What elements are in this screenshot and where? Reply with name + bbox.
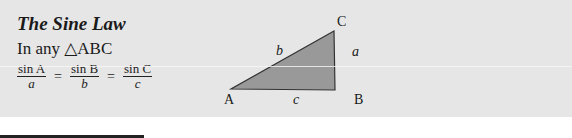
denominator: c — [135, 77, 141, 91]
side-b-label: b — [276, 43, 283, 59]
vertex-c-label: C — [337, 14, 346, 30]
sine-law-box: The Sine Law In any △ABC sin A a = sin B… — [0, 0, 572, 117]
vertex-a-label: A — [224, 92, 234, 108]
numerator: sin B — [70, 62, 99, 77]
triangle-shape — [231, 31, 335, 90]
numerator: sin A — [17, 62, 46, 77]
scan-artifact-line — [0, 66, 572, 67]
section-divider-bar — [0, 135, 144, 138]
denominator: a — [28, 77, 35, 91]
side-c-label: c — [293, 92, 299, 108]
equals-sign: = — [107, 69, 115, 85]
denominator: b — [81, 77, 88, 91]
box-subtitle: In any △ABC — [17, 38, 112, 59]
side-a-label: a — [352, 44, 359, 60]
vertex-b-label: B — [354, 92, 363, 108]
equals-sign: = — [54, 69, 62, 85]
numerator: sin C — [123, 62, 152, 77]
box-title: The Sine Law — [17, 13, 126, 35]
